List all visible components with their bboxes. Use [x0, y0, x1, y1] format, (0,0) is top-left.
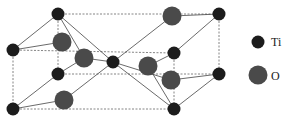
- o-atom: [163, 7, 182, 26]
- ti-atom: [213, 8, 226, 21]
- ti-atom: [52, 68, 65, 81]
- ti-atom: [7, 103, 20, 116]
- legend: Ti O: [249, 35, 282, 85]
- o-atom: [162, 71, 181, 90]
- legend-ti-icon: [252, 36, 265, 49]
- ti-atom: [213, 68, 226, 81]
- legend-o-label: O: [271, 69, 280, 83]
- legend-o-icon: [249, 66, 268, 85]
- titanium-atoms: [7, 8, 226, 116]
- ti-atom: [168, 47, 181, 60]
- ti-atom: [52, 8, 65, 21]
- ti-atom-center: [107, 56, 120, 69]
- ti-atom: [7, 44, 20, 57]
- o-atom: [55, 91, 74, 110]
- o-atom: [75, 49, 94, 68]
- o-atom: [53, 33, 72, 52]
- ti-atom: [168, 103, 181, 116]
- o-atom: [139, 57, 158, 76]
- legend-ti-label: Ti: [271, 35, 282, 49]
- crystal-structure-diagram: Ti O: [0, 0, 284, 127]
